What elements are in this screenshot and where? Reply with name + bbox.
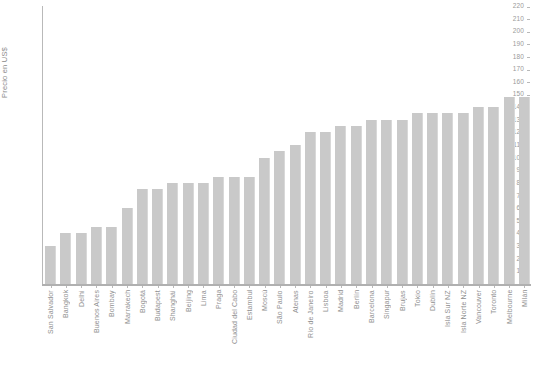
x-axis-tick-mark <box>51 286 52 289</box>
x-axis-tick-mark <box>112 286 113 289</box>
x-axis-tick-mark <box>310 286 311 289</box>
x-axis-tick-mark <box>234 286 235 289</box>
bar <box>427 113 438 284</box>
bar <box>366 120 377 284</box>
x-axis-tick-mark <box>96 286 97 289</box>
x-axis-tick-label: Madrid <box>337 290 344 380</box>
x-axis-tick-label: Moscú <box>261 290 268 380</box>
x-axis-tick-mark <box>387 286 388 289</box>
x-axis-tick-mark <box>448 286 449 289</box>
bar <box>76 233 87 284</box>
x-axis-tick-mark <box>524 286 525 289</box>
x-axis-tick-mark <box>219 286 220 289</box>
bar <box>183 183 194 284</box>
x-axis-tick-label: Beijing <box>185 290 192 380</box>
x-axis-tick-label: Milán <box>521 290 528 380</box>
x-axis-tick-mark <box>372 286 373 289</box>
bar <box>397 120 408 284</box>
bar <box>167 183 178 284</box>
x-axis-tick-label: Dublín <box>429 290 436 380</box>
x-axis-tick-label: Buenos Aires <box>93 290 100 380</box>
x-axis-tick-label: San Salvador <box>47 290 54 380</box>
x-axis-tick-mark <box>280 286 281 289</box>
bar-chart: Precio en US$ 10203040506070809010011012… <box>0 0 538 382</box>
x-axis-tick-mark <box>188 286 189 289</box>
bar <box>290 145 301 284</box>
bar <box>488 107 499 284</box>
x-axis-tick-mark <box>66 286 67 289</box>
x-axis-tick-mark <box>417 286 418 289</box>
bar <box>442 113 453 284</box>
x-axis-tick-label: Brujas <box>399 290 406 380</box>
bar <box>198 183 209 284</box>
x-axis-tick-label: Atenas <box>292 290 299 380</box>
bar <box>381 120 392 284</box>
x-axis-tick-mark <box>203 286 204 289</box>
x-axis-tick-label: Isla Norte NZ <box>460 290 467 380</box>
x-axis-tick-mark <box>463 286 464 289</box>
x-axis-tick-label: Río de Janeiro <box>307 290 314 380</box>
x-axis-tick-label: Marrakech <box>124 290 131 380</box>
x-axis-tick-label: Estambul <box>246 290 253 380</box>
x-axis-tick-label: Lisboa <box>322 290 329 380</box>
x-axis-tick-mark <box>433 286 434 289</box>
x-axis-tick-mark <box>173 286 174 289</box>
x-axis-tick-label: Ciudad del Cabo <box>231 290 238 380</box>
x-axis-tick-label: Bangkok <box>62 290 69 380</box>
bar <box>45 246 56 284</box>
x-axis-tick-mark <box>265 286 266 289</box>
bar <box>458 113 469 284</box>
x-axis-tick-label: Isla Sur NZ <box>444 290 451 380</box>
bars-layer <box>42 6 531 284</box>
x-axis-tick-label: Tokio <box>414 290 421 380</box>
x-axis-tick-label: Berlín <box>353 290 360 380</box>
x-axis-tick-label: Vancouver <box>475 290 482 380</box>
bar <box>152 189 163 284</box>
x-axis-tick-mark <box>158 286 159 289</box>
y-axis-title: Precio en US$ <box>0 8 14 98</box>
bar <box>412 113 423 284</box>
bar <box>213 177 224 284</box>
x-axis-tick-label: Shanghái <box>169 290 176 380</box>
x-axis-tick-mark <box>127 286 128 289</box>
x-axis-tick-mark <box>326 286 327 289</box>
bar <box>259 158 270 284</box>
bar <box>60 233 71 284</box>
x-axis-tick-mark <box>494 286 495 289</box>
x-axis-tick-label: Toronto <box>490 290 497 380</box>
x-axis-tick-label: São Paulo <box>276 290 283 380</box>
x-axis-tick-label: Delhi <box>78 290 85 380</box>
bar <box>351 126 362 284</box>
bar <box>229 177 240 284</box>
bar <box>106 227 117 284</box>
bar <box>335 126 346 284</box>
x-axis-tick-mark <box>479 286 480 289</box>
x-axis-tick-mark <box>295 286 296 289</box>
x-axis-tick-mark <box>509 286 510 289</box>
x-axis-tick-mark <box>341 286 342 289</box>
x-axis-tick-mark <box>81 286 82 289</box>
x-axis-tick-mark <box>249 286 250 289</box>
bar <box>244 177 255 284</box>
bar <box>320 132 331 284</box>
x-axis-tick-label: Budapest <box>154 290 161 380</box>
bar <box>504 97 515 284</box>
bar <box>91 227 102 284</box>
x-axis-tick-mark <box>402 286 403 289</box>
bar <box>473 107 484 284</box>
x-axis-tick-label: Barcelona <box>368 290 375 380</box>
x-axis-tick-label: Singapur <box>383 290 390 380</box>
x-axis-tick-label: Melbourne <box>506 290 513 380</box>
bar <box>519 97 530 284</box>
bar <box>274 151 285 284</box>
bar <box>137 189 148 284</box>
x-axis-labels: San SalvadorBangkokDelhiBuenos AiresBomb… <box>42 290 531 382</box>
x-axis-tick-label: Bombay <box>108 290 115 380</box>
x-axis-tick-label: Lima <box>200 290 207 380</box>
bar <box>122 208 133 284</box>
x-axis-tick-label: Praga <box>215 290 222 380</box>
x-axis-tick-label: Bogotá <box>139 290 146 380</box>
bar <box>305 132 316 284</box>
x-axis-tick-mark <box>356 286 357 289</box>
x-axis-tick-mark <box>142 286 143 289</box>
